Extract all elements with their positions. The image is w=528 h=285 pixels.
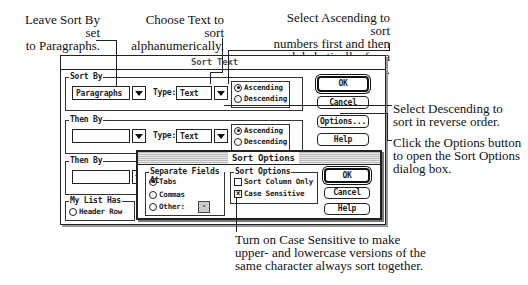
sort-options-group: Sort Options Sort Column Only ×Case Sens…	[230, 172, 318, 204]
descending-radio[interactable]: Descending	[234, 137, 287, 147]
separate-fields-group: Separate Fields At Tabs Commas Other: -	[145, 172, 225, 216]
callout-options: Click the Options button to open the Sor…	[393, 136, 521, 175]
radio-empty-icon	[149, 191, 157, 199]
group-label: Then By	[69, 156, 103, 165]
my-list-has-group: My List Has Header Row	[65, 201, 135, 221]
then-by-field[interactable]	[72, 170, 130, 184]
leader-line	[224, 105, 392, 106]
title-bar: Sort Options	[138, 152, 380, 165]
radio-label: Ascending	[244, 83, 283, 92]
radio-empty-icon	[149, 203, 157, 211]
checkbox-label: Sort Column Only	[244, 177, 313, 186]
callout-line: to Paragraphs.	[18, 39, 100, 52]
radio-label: Commas	[159, 190, 185, 199]
ok-button[interactable]: OK	[324, 168, 370, 183]
callout-type-text: Choose Text to sort alphanumerically.	[128, 13, 224, 52]
help-button[interactable]: Help	[324, 203, 370, 215]
then-by-group-1: Then By Type: Text Ascending Descending	[65, 120, 303, 154]
radio-selected-icon	[234, 127, 242, 135]
leader-line	[236, 198, 237, 232]
callout-line: alphanumerically.	[128, 39, 224, 52]
radio-label: Descending	[244, 94, 287, 103]
callout-line: sort in reverse order.	[393, 115, 503, 128]
checkbox-label: Case Sensitive	[244, 189, 304, 198]
leader-line	[96, 40, 117, 41]
leader-line	[387, 113, 388, 141]
other-radio[interactable]: Other:	[149, 202, 185, 212]
leader-line	[389, 43, 390, 51]
cancel-button[interactable]: Cancel	[324, 187, 370, 199]
radio-empty-icon	[234, 95, 242, 103]
radio-label: Tabs	[159, 177, 176, 186]
descending-radio[interactable]: Descending	[234, 94, 287, 104]
then-by-dropdown-arrow-icon[interactable]	[132, 129, 146, 143]
radio-label: Descending	[244, 137, 287, 146]
radio-selected-icon	[149, 178, 157, 186]
then-by-field[interactable]	[72, 129, 130, 143]
callout-line: Leave Sort By set	[18, 13, 100, 39]
callout-line: dialog box.	[393, 162, 521, 175]
sort-column-only-checkbox[interactable]: Sort Column Only	[234, 177, 313, 187]
leader-line	[340, 113, 387, 114]
other-field[interactable]: -	[198, 201, 210, 213]
commas-radio[interactable]: Commas	[149, 190, 185, 200]
sort-by-field[interactable]: Paragraphs	[72, 86, 130, 100]
callout-descending: Select Descending to sort in reverse ord…	[393, 102, 503, 128]
leader-line	[228, 50, 229, 84]
callout-case-sensitive: Turn on Case Sensitive to make upper- an…	[235, 233, 426, 272]
leader-line	[387, 140, 392, 141]
ascending-radio[interactable]: Ascending	[234, 126, 283, 136]
radio-empty-icon	[234, 138, 242, 146]
radio-selected-icon	[234, 84, 242, 92]
group-label: Then By	[69, 115, 103, 124]
group-label: My List Has	[69, 196, 122, 205]
callout-line: same character always sort together.	[235, 259, 426, 272]
cancel-button[interactable]: Cancel	[317, 96, 369, 109]
radio-label: Ascending	[244, 126, 283, 135]
title-bar: Sort Text	[61, 56, 385, 70]
header-row-radio[interactable]: Header Row	[69, 207, 122, 217]
dialog-title: Sort Options	[228, 152, 299, 164]
radio-label: Other:	[159, 202, 185, 211]
leader-line	[116, 40, 117, 86]
callout-sort-by: Leave Sort By set to Paragraphs.	[18, 13, 100, 52]
type-field[interactable]: Text	[176, 86, 212, 100]
ok-button[interactable]: OK	[317, 76, 369, 92]
ascending-radio[interactable]: Ascending	[234, 83, 283, 93]
group-label: Sort Options	[234, 167, 291, 176]
checkbox-checked-icon: ×	[234, 190, 242, 198]
checkbox-empty-icon	[234, 178, 242, 186]
leader-line	[222, 38, 223, 72]
type-dropdown-arrow-icon[interactable]	[214, 129, 228, 143]
callout-line: Choose Text to sort	[128, 13, 224, 39]
options-button[interactable]: Options...	[317, 115, 369, 128]
group-label: Sort By	[69, 72, 103, 81]
tabs-radio[interactable]: Tabs	[149, 177, 176, 187]
sort-by-dropdown-arrow-icon[interactable]	[132, 86, 146, 100]
radio-label: Header Row	[79, 207, 122, 216]
leader-line	[228, 50, 390, 51]
radio-empty-icon	[69, 208, 77, 216]
callout-line: Select Ascending to sort	[268, 11, 390, 37]
case-sensitive-checkbox[interactable]: ×Case Sensitive	[234, 189, 304, 199]
leader-line	[210, 72, 211, 84]
dialog-title: Sort Text	[191, 57, 238, 67]
type-field[interactable]: Text	[176, 129, 212, 143]
help-button[interactable]: Help	[317, 133, 369, 146]
type-label: Type:	[153, 88, 176, 97]
sort-options-dialog: Sort Options Separate Fields At Tabs Com…	[136, 150, 382, 220]
type-dropdown-arrow-icon[interactable]	[214, 86, 228, 100]
leader-line	[210, 72, 223, 73]
type-label: Type:	[153, 131, 176, 140]
